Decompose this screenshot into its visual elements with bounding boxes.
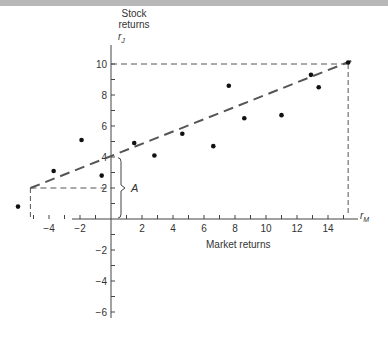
y-tick-label: −6 bbox=[96, 307, 108, 318]
brace-a bbox=[118, 158, 125, 218]
y-tick-label: −2 bbox=[96, 245, 108, 256]
x-tick-label: −2 bbox=[74, 223, 86, 234]
data-point bbox=[152, 153, 157, 158]
y-tick-label: 8 bbox=[101, 90, 107, 101]
data-point bbox=[346, 60, 351, 65]
y-tick-label: −4 bbox=[96, 276, 108, 287]
x-tick-label: 10 bbox=[260, 223, 272, 234]
x-tick-label: 2 bbox=[139, 223, 145, 234]
data-point bbox=[79, 138, 84, 143]
data-point bbox=[316, 85, 321, 90]
x-tick-label: −4 bbox=[43, 223, 55, 234]
x-tick-label: 8 bbox=[232, 223, 238, 234]
data-point bbox=[51, 169, 56, 174]
data-point bbox=[99, 173, 104, 178]
y-tick-label: 6 bbox=[101, 121, 107, 132]
data-point bbox=[180, 131, 185, 136]
y-tick-label: 10 bbox=[96, 59, 108, 70]
x-tick-label: 14 bbox=[322, 223, 334, 234]
data-point bbox=[309, 73, 314, 78]
data-point bbox=[242, 116, 247, 121]
scatter-chart: −4−22468101214−6−4−2246810 bbox=[0, 0, 388, 342]
data-point bbox=[132, 141, 137, 146]
x-tick-label: 12 bbox=[291, 223, 303, 234]
x-tick-label: 4 bbox=[170, 223, 176, 234]
x-tick-label: 6 bbox=[201, 223, 207, 234]
data-point bbox=[211, 144, 216, 149]
data-point bbox=[279, 113, 284, 118]
regression-line bbox=[30, 61, 351, 188]
data-point bbox=[227, 83, 232, 88]
data-point bbox=[16, 204, 21, 209]
